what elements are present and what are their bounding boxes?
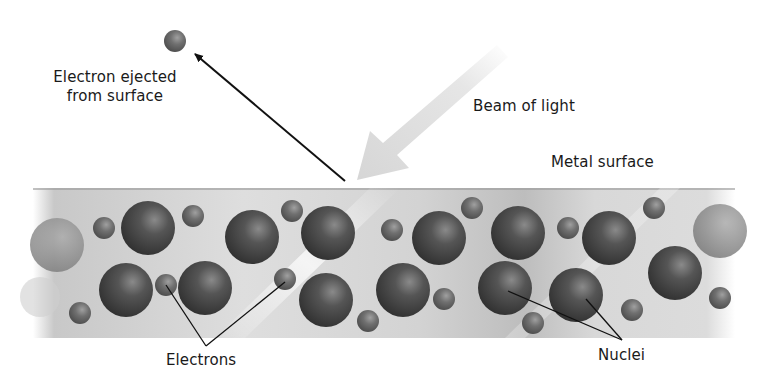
nucleus	[491, 206, 545, 260]
electron	[381, 219, 403, 241]
label-electrons: Electrons	[166, 351, 236, 370]
electron	[643, 197, 665, 219]
electron	[274, 268, 296, 290]
nucleus	[478, 261, 532, 315]
nucleus	[20, 277, 60, 317]
nucleus	[225, 210, 279, 264]
electron	[522, 312, 544, 334]
electron	[709, 287, 731, 309]
nucleus	[99, 263, 153, 317]
nucleus	[301, 206, 355, 260]
label-beam-of-light: Beam of light	[473, 97, 575, 116]
electron	[182, 205, 204, 227]
electron	[621, 299, 643, 321]
nucleus	[121, 201, 175, 255]
electron	[93, 217, 115, 239]
electron	[357, 310, 379, 332]
label-electron-ejected: Electron ejected from surface	[40, 68, 190, 106]
nucleus	[30, 218, 84, 272]
label-nuclei: Nuclei	[598, 346, 645, 365]
label-metal-surface: Metal surface	[551, 153, 654, 172]
nucleus	[648, 246, 702, 300]
nucleus	[299, 273, 353, 327]
ejected-electron	[164, 30, 186, 52]
label-ejected-line1: Electron ejected	[40, 68, 190, 87]
nucleus	[582, 211, 636, 265]
electron	[433, 288, 455, 310]
nucleus	[178, 261, 232, 315]
nucleus	[549, 268, 603, 322]
label-ejected-line2: from surface	[40, 87, 190, 106]
electron	[69, 302, 91, 324]
ejection-trajectory-arrow	[195, 54, 345, 181]
nucleus	[693, 204, 747, 258]
electron	[281, 200, 303, 222]
electron	[557, 217, 579, 239]
photoelectric-diagram	[0, 0, 775, 389]
nucleus	[376, 263, 430, 317]
nucleus	[412, 211, 466, 265]
electron	[461, 197, 483, 219]
